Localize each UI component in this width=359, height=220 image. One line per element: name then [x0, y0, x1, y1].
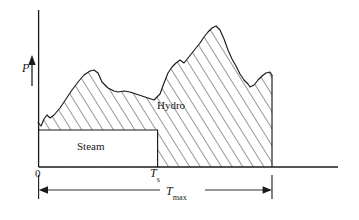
- load-duration-curve-figure: P 0 Ts Tmax Steam Hydro: [0, 0, 359, 220]
- tmax-subscript: max: [173, 193, 187, 202]
- hydro-region-label: Hydro: [157, 100, 185, 111]
- x-origin-label: 0: [35, 168, 41, 179]
- x-tick-label-ts: Ts: [150, 167, 160, 183]
- p-axis-up-arrow-icon: [28, 55, 35, 86]
- steam-region-label: Steam: [77, 141, 105, 152]
- ts-subscript: s: [157, 175, 160, 184]
- y-axis-label: P: [22, 62, 29, 74]
- ts-base: T: [150, 166, 157, 180]
- dimension-label-tmax: Tmax: [166, 185, 187, 201]
- tmax-base: T: [166, 184, 173, 198]
